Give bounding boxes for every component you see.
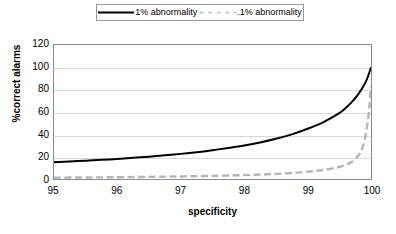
chart-container: 1% abnormality .1% abnormality 120 100 8… — [0, 0, 396, 234]
x-tick-100: 100 — [352, 186, 392, 196]
legend-entry-primary: 1% abnormality — [98, 5, 197, 20]
chart-legend: 1% abnormality .1% abnormality — [96, 4, 304, 21]
legend-swatch-solid-line-icon — [98, 8, 134, 17]
x-tick-98: 98 — [224, 186, 264, 196]
x-tick-99: 99 — [288, 186, 328, 196]
y-axis-label-wrap: %correct alarms — [0, 0, 20, 234]
plot-area — [53, 44, 372, 180]
x-axis-label: specificity — [53, 206, 372, 217]
series-line-primary — [54, 67, 371, 162]
y-axis-label: %correct alarms — [11, 19, 22, 149]
x-tick-97: 97 — [161, 186, 201, 196]
x-axis-ticks: 95 96 97 98 99 100 — [53, 186, 372, 200]
series-line-secondary — [54, 86, 371, 177]
x-tick-95: 95 — [33, 186, 73, 196]
x-tick-96: 96 — [97, 186, 137, 196]
series-plot — [54, 45, 371, 179]
legend-entry-secondary: .1% abnormality — [200, 5, 302, 20]
legend-label-secondary: .1% abnormality — [237, 8, 302, 17]
legend-swatch-dashed-line-icon — [200, 8, 236, 17]
legend-label-primary: 1% abnormality — [135, 8, 197, 17]
